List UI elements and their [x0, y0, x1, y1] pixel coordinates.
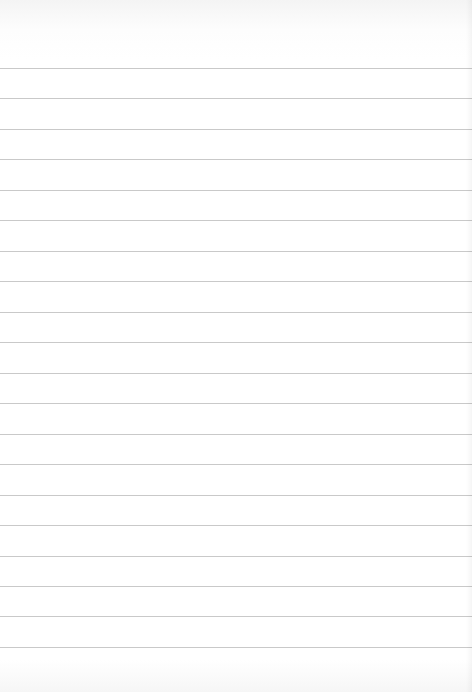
- ruled-line: [0, 220, 472, 221]
- ruled-line: [0, 251, 472, 252]
- ruled-line: [0, 434, 472, 435]
- ruled-line: [0, 403, 472, 404]
- ruled-line: [0, 312, 472, 313]
- ruled-line: [0, 586, 472, 587]
- ruled-line: [0, 616, 472, 617]
- ruled-line: [0, 98, 472, 99]
- ruled-line: [0, 556, 472, 557]
- ruled-line: [0, 373, 472, 374]
- ruled-line: [0, 464, 472, 465]
- ruled-line: [0, 525, 472, 526]
- ruled-line: [0, 647, 472, 648]
- ruled-line: [0, 68, 472, 69]
- ruled-line: [0, 281, 472, 282]
- ruled-line: [0, 495, 472, 496]
- ruled-line: [0, 129, 472, 130]
- ruled-line: [0, 342, 472, 343]
- ruled-line: [0, 190, 472, 191]
- ruled-paper-sheet: [0, 0, 472, 692]
- ruled-line: [0, 159, 472, 160]
